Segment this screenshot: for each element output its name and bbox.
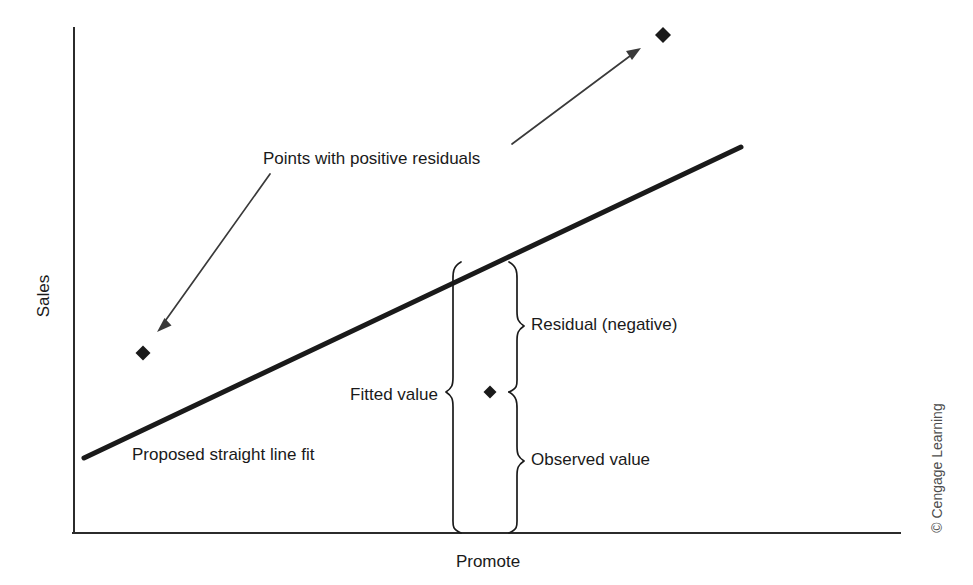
copyright-credit: © Cengage Learning bbox=[929, 403, 945, 532]
x-axis-label: Promote bbox=[456, 552, 520, 571]
brace-residual-negative bbox=[509, 262, 524, 392]
callout-arrow-lower-left-head bbox=[157, 318, 172, 332]
annotation-positive-residuals: Points with positive residuals bbox=[263, 149, 480, 168]
data-point-markers bbox=[136, 27, 672, 399]
callout-arrow-upper-right-shaft bbox=[512, 53, 634, 144]
data-point-observed-negative-residual bbox=[484, 386, 497, 399]
y-axis-label: Sales bbox=[34, 275, 53, 318]
data-point-positive-residual-upper-right bbox=[655, 27, 671, 43]
proposed-fit-line bbox=[84, 147, 741, 458]
callout-arrow-upper-right bbox=[512, 48, 641, 144]
callout-arrow-lower-left-shaft bbox=[163, 174, 270, 324]
brace-fitted-value bbox=[446, 262, 461, 533]
brace-observed-value bbox=[509, 392, 524, 533]
annotation-proposed-fit: Proposed straight line fit bbox=[132, 445, 315, 464]
annotation-fitted-value: Fitted value bbox=[350, 385, 438, 404]
annotation-residual-negative: Residual (negative) bbox=[531, 315, 677, 334]
data-point-positive-residual-left bbox=[136, 346, 151, 361]
annotation-observed-value: Observed value bbox=[531, 450, 650, 469]
callout-arrow-lower-left bbox=[157, 174, 270, 332]
residual-plot-figure: Points with positive residuals Proposed … bbox=[0, 0, 973, 585]
